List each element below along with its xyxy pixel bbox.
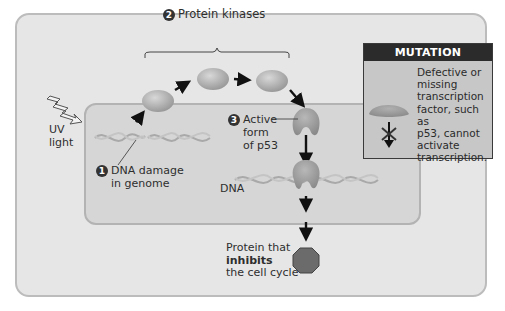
uv-lightning-icon	[47, 96, 82, 124]
kinase-3-icon	[256, 70, 288, 92]
blocked-arrow-icon	[382, 122, 396, 148]
dna-label: DNA	[220, 182, 244, 195]
step-2-label: 2Protein kinases	[163, 8, 265, 21]
kinase-1-icon	[142, 90, 174, 112]
step-1-label: 1DNA damage in genome	[96, 164, 184, 190]
arrow-kinase3-to-p53	[290, 90, 302, 104]
kinase-2-icon	[197, 68, 229, 90]
mutation-header: MUTATION	[364, 44, 492, 61]
p53-bound-icon	[293, 160, 320, 189]
arrow-kinase1-to-2	[175, 83, 187, 90]
defective-p53-icon	[369, 105, 409, 117]
output-label: Protein that inhibits the cell cycle	[226, 242, 298, 280]
uv-label: UV light	[49, 123, 73, 149]
dna-damaged-icon	[95, 133, 210, 141]
step-3-label: 3Active form of p53	[228, 113, 278, 152]
mutation-icons	[364, 62, 414, 158]
p53-active-icon	[293, 108, 320, 135]
step-3-number: 3	[228, 114, 240, 126]
step-1-number: 1	[96, 165, 108, 177]
arrow-uv-to-kinase1	[136, 114, 142, 122]
arrow-kinase2-to-3	[234, 79, 247, 80]
mutation-description: Defective or missing transcription facto…	[417, 66, 492, 164]
kinases-brace	[145, 48, 289, 58]
mutation-box: MUTATION Defective or missing transcript…	[363, 43, 493, 159]
step-2-number: 2	[163, 9, 175, 21]
